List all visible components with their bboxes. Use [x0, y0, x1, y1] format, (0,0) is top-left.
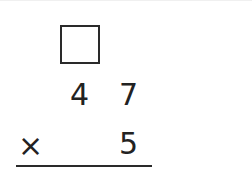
multiplicand-tens-digit: 4: [70, 80, 89, 110]
carry-answer-box[interactable]: [60, 25, 100, 64]
multiplier-digit: 5: [119, 129, 138, 159]
answer-line: [16, 165, 152, 167]
top-border: [0, 0, 252, 1]
multiplicand-ones-digit: 7: [119, 80, 138, 110]
multiply-sign-icon: ×: [18, 131, 43, 161]
